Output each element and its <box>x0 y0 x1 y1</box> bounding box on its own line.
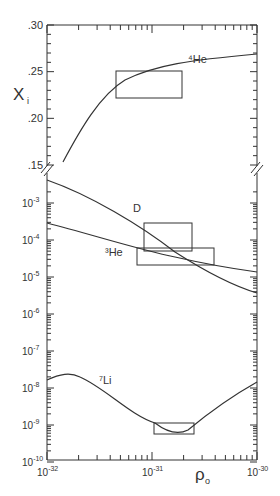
y-tick-label: .20 <box>28 112 43 124</box>
y-tick-label: 10-6 <box>22 307 39 320</box>
li7-label: ⁷Li <box>99 374 112 386</box>
y-tick-label: .25 <box>28 65 43 77</box>
x-axis-label: ρ <box>195 465 205 484</box>
he4-label: ⁴He <box>188 53 207 65</box>
plot-frame <box>47 25 257 460</box>
y-tick-label: 10-7 <box>22 344 39 357</box>
d-curve <box>47 180 257 293</box>
x-axis-label-sub: o <box>205 476 210 486</box>
abundance-chart: ⁴He D ³He ⁷Li X i ρ o .30.25.20.1510-310… <box>0 0 280 496</box>
he4-box <box>116 71 182 98</box>
y-axis-label: X <box>13 85 24 104</box>
x-tick-label: 10-32 <box>37 465 58 478</box>
y-tick-label: 10-3 <box>22 196 39 209</box>
y-tick-label: .15 <box>28 159 43 171</box>
x-ticks <box>47 25 257 460</box>
y-tick-label: 10-9 <box>22 418 39 431</box>
li7-curve <box>47 374 257 432</box>
y-tick-label: 10-5 <box>22 270 39 283</box>
y-tick-label: .30 <box>28 19 43 31</box>
y-tick-label: 10-8 <box>22 381 39 394</box>
y-axis-label-sub: i <box>27 96 29 106</box>
he4-curve <box>63 54 257 162</box>
d-label: D <box>133 202 141 214</box>
y-tick-label: 10-4 <box>22 233 39 246</box>
upper-y-ticks <box>47 25 257 165</box>
he3-label: ³He <box>105 246 123 258</box>
x-tick-label: 10-31 <box>142 465 163 478</box>
x-tick-label: 10-30 <box>247 465 268 478</box>
